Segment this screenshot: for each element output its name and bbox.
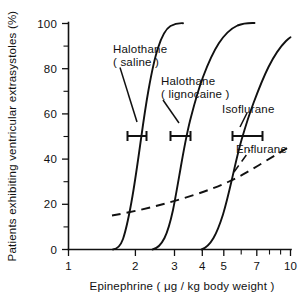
label-enflurane: Enflurane — [236, 143, 287, 155]
x-tick-label-1: 1 — [65, 260, 72, 272]
figure-container: 1 2 3 4 5 7 10 0 20 40 60 80 100 Epineph… — [0, 0, 303, 298]
y-tick-label-60: 60 — [44, 108, 57, 120]
y-axis-title: Patients exhibiting ventricular extrasys… — [6, 11, 18, 262]
y-tick-label-40: 40 — [44, 153, 57, 165]
errorbar-halothane-saline — [128, 131, 147, 141]
y-tick-labels: 0 20 40 60 80 100 — [37, 18, 57, 256]
x-tick-label-2: 2 — [132, 260, 139, 272]
label-halothane-saline-line1: Halothane — [113, 43, 167, 55]
label-isoflurane: Isoflurane — [222, 103, 275, 115]
x-axis-major-ticks — [69, 250, 291, 257]
x-tick-label-3: 3 — [171, 260, 178, 272]
chart-canvas: 1 2 3 4 5 7 10 0 20 40 60 80 100 Epineph… — [0, 0, 303, 298]
y-tick-label-100: 100 — [37, 18, 57, 30]
leader-halothane-saline — [120, 68, 137, 123]
label-halothane-lignocaine-line2: ( lignocaine ) — [161, 88, 230, 100]
x-tick-label-10: 10 — [284, 260, 297, 272]
y-tick-label-80: 80 — [44, 63, 57, 75]
errorbar-isoflurane — [233, 131, 263, 141]
leader-halothane-lignocaine — [163, 100, 179, 123]
x-tick-labels: 1 2 3 4 5 7 10 — [65, 260, 297, 272]
x-axis-title: Epinephrine ( μg / kg body weight ) — [90, 280, 275, 292]
y-tick-label-0: 0 — [50, 244, 57, 256]
x-tick-label-4: 4 — [199, 260, 206, 272]
y-tick-label-20: 20 — [44, 198, 57, 210]
x-tick-label-7: 7 — [253, 260, 260, 272]
series-labels: Halothane ( saline ) Halothane ( lignoca… — [113, 43, 287, 155]
label-halothane-saline-line2: ( saline ) — [113, 56, 159, 68]
x-tick-label-5: 5 — [220, 260, 227, 272]
label-halothane-lignocaine-line1: Halothane — [161, 75, 215, 87]
